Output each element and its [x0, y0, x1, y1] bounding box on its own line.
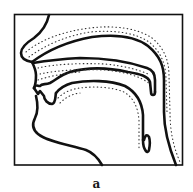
vocal-tract-diagram [0, 0, 193, 170]
epiglottis [143, 135, 150, 152]
figure-caption: a [0, 177, 193, 191]
tongue [56, 81, 143, 140]
tongue-shading [58, 87, 139, 148]
nasal-roof-shading [26, 27, 180, 162]
upper-lip [32, 62, 36, 88]
chin-neck [33, 96, 102, 165]
